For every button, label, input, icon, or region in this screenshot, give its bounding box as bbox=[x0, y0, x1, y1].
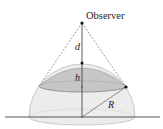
observer-label: Observer bbox=[86, 10, 125, 21]
tangent-point bbox=[124, 85, 127, 88]
cap-top-point bbox=[81, 62, 84, 65]
spherical-cap bbox=[39, 68, 126, 92]
h-label: h bbox=[75, 72, 80, 83]
horizon-distance-diagram: Observer d h R bbox=[0, 0, 163, 129]
R-label: R bbox=[107, 99, 114, 110]
sphere-center-point bbox=[81, 116, 83, 118]
cap-center-point bbox=[81, 86, 83, 88]
d-label: d bbox=[75, 41, 81, 52]
observer-point bbox=[80, 21, 83, 24]
